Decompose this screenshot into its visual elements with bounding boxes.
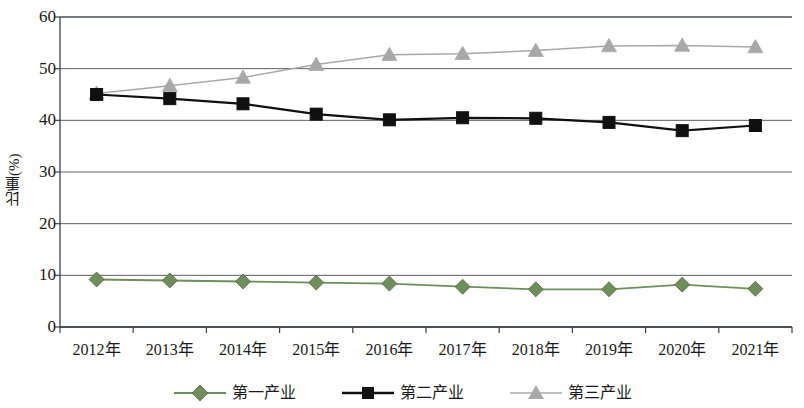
data-point-marker bbox=[91, 89, 103, 101]
data-point-marker bbox=[530, 112, 542, 124]
data-point-marker bbox=[89, 272, 104, 287]
legend-key-square-icon bbox=[340, 383, 396, 403]
data-point-marker bbox=[383, 114, 395, 126]
data-point-marker bbox=[237, 98, 249, 110]
x-axis-tick-label: 2012年 bbox=[73, 341, 121, 359]
legend-item-3[interactable]: 第三产业 bbox=[508, 383, 632, 403]
data-point-marker bbox=[676, 125, 688, 137]
data-point-marker bbox=[455, 279, 470, 294]
chart-legend: 第一产业第二产业第三产业 bbox=[0, 383, 804, 403]
x-axis-tick-label: 2016年 bbox=[365, 341, 413, 359]
x-axis-tick-label: 2018年 bbox=[512, 341, 560, 359]
legend-key-triangle-icon bbox=[508, 383, 564, 403]
legend-item-2[interactable]: 第二产业 bbox=[340, 383, 464, 403]
x-axis-tick-label: 2021年 bbox=[731, 341, 779, 359]
line-chart: 比重(%) 0102030405060 2012年2013年2014年2015年… bbox=[0, 0, 804, 408]
series-line bbox=[97, 45, 756, 93]
legend-marker bbox=[362, 387, 374, 399]
data-point-marker bbox=[310, 108, 322, 120]
data-point-marker bbox=[748, 281, 763, 296]
legend-key-diamond-icon bbox=[172, 383, 228, 403]
x-axis-tick-label: 2020年 bbox=[658, 341, 706, 359]
data-point-marker bbox=[749, 120, 761, 132]
x-axis-tick-label: 2014年 bbox=[219, 341, 267, 359]
x-axis-tick-label: 2017年 bbox=[439, 341, 487, 359]
data-point-marker bbox=[528, 282, 543, 297]
data-point-marker bbox=[457, 112, 469, 124]
data-point-marker bbox=[164, 93, 176, 105]
data-point-marker bbox=[602, 38, 617, 51]
data-point-marker bbox=[675, 277, 690, 292]
legend-label: 第三产业 bbox=[568, 384, 632, 402]
data-point-marker bbox=[602, 282, 617, 297]
legend-marker bbox=[528, 385, 544, 399]
data-point-marker bbox=[309, 275, 324, 290]
x-axis-tick-label: 2013年 bbox=[146, 341, 194, 359]
data-point-marker bbox=[382, 276, 397, 291]
data-point-marker bbox=[236, 274, 251, 289]
x-axis-tick-label: 2015年 bbox=[292, 341, 340, 359]
x-axis-tick-label: 2019年 bbox=[585, 341, 633, 359]
legend-label: 第二产业 bbox=[400, 384, 464, 402]
series-line bbox=[97, 95, 756, 131]
legend-item-1[interactable]: 第一产业 bbox=[172, 383, 296, 403]
series-2 bbox=[91, 89, 762, 137]
data-point-marker bbox=[603, 116, 615, 128]
legend-label: 第一产业 bbox=[232, 384, 296, 402]
data-point-marker bbox=[675, 38, 690, 51]
legend-marker bbox=[192, 385, 208, 401]
series-line bbox=[97, 280, 756, 290]
